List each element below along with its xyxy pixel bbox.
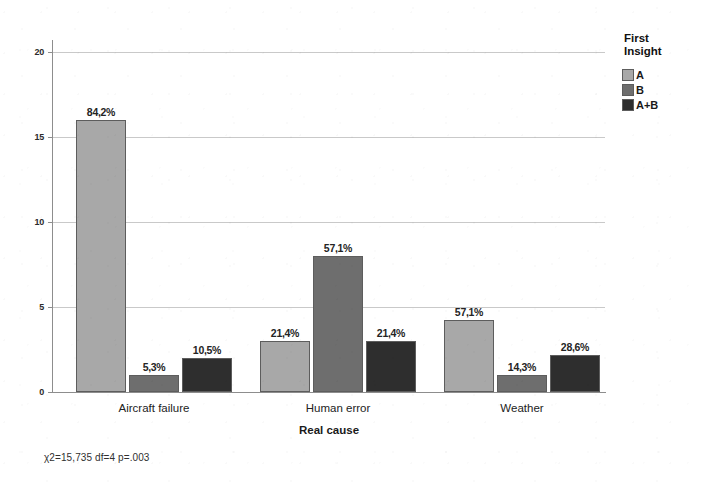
bar-label-weather-B: 14,3% [508, 361, 536, 373]
bar-label-weather-AB: 28,6% [561, 341, 589, 353]
legend-swatch-icon-b [622, 84, 634, 96]
legend-title-line2: Insight [624, 45, 698, 58]
category-label-human-error: Human error [306, 402, 371, 414]
bar-chart-figure: 20 15 10 5 0 84,2% 5,3% 10,5% 21 [0, 0, 701, 492]
bar-label-weather-A: 57,1% [455, 306, 483, 318]
legend: First Insight A B A+B [622, 32, 698, 113]
bar-aircraft-failure-AB: 10,5% [182, 358, 232, 392]
ytick-label-20: 20 [34, 47, 44, 57]
legend-swatch-icon-a [622, 69, 634, 81]
ytick-label-10: 10 [34, 217, 44, 227]
ytick-label-15: 15 [34, 132, 44, 142]
bar-label-aircraft-failure-B: 5,3% [143, 361, 166, 373]
legend-label-ab: A+B [636, 99, 658, 111]
bar-aircraft-failure-B: 5,3% [129, 375, 179, 392]
legend-title: First Insight [624, 32, 698, 58]
statistics-caption: χ2=15,735 df=4 p=.003 [44, 452, 150, 463]
bar-label-aircraft-failure-AB: 10,5% [193, 344, 221, 356]
legend-item-b[interactable]: B [622, 83, 698, 97]
legend-label-b: B [636, 84, 644, 96]
bar-label-human-error-AB: 21,4% [377, 327, 405, 339]
legend-swatch-icon-ab [622, 99, 634, 111]
ytick-label-0: 0 [39, 387, 44, 397]
legend-item-ab[interactable]: A+B [622, 98, 698, 112]
category-label-aircraft-failure: Aircraft failure [119, 402, 190, 414]
bar-label-human-error-B: 57,1% [324, 242, 352, 254]
legend-items: A B A+B [622, 68, 698, 112]
plot-area: 20 15 10 5 0 84,2% 5,3% 10,5% 21 [53, 52, 605, 392]
gridline-10: 10 [53, 222, 605, 223]
legend-title-line1: First [624, 32, 698, 45]
gridline-15: 15 [53, 137, 605, 138]
legend-label-a: A [636, 69, 644, 81]
bar-weather-B: 14,3% [497, 375, 547, 392]
bar-label-human-error-A: 21,4% [271, 327, 299, 339]
bar-human-error-AB: 21,4% [366, 341, 416, 392]
bar-weather-AB: 28,6% [550, 355, 600, 392]
x-axis-line [53, 392, 606, 393]
ytick-label-5: 5 [39, 302, 44, 312]
bar-label-aircraft-failure-A: 84,2% [87, 106, 115, 118]
bar-human-error-B: 57,1% [313, 256, 363, 392]
legend-item-a[interactable]: A [622, 68, 698, 82]
category-label-weather: Weather [500, 402, 543, 414]
bar-aircraft-failure-A: 84,2% [76, 120, 126, 392]
bar-weather-A: 57,1% [444, 320, 494, 392]
bar-human-error-A: 21,4% [260, 341, 310, 392]
gridline-20: 20 [53, 52, 605, 53]
x-axis-title: Real cause [299, 424, 359, 436]
y-axis-line [52, 40, 53, 392]
